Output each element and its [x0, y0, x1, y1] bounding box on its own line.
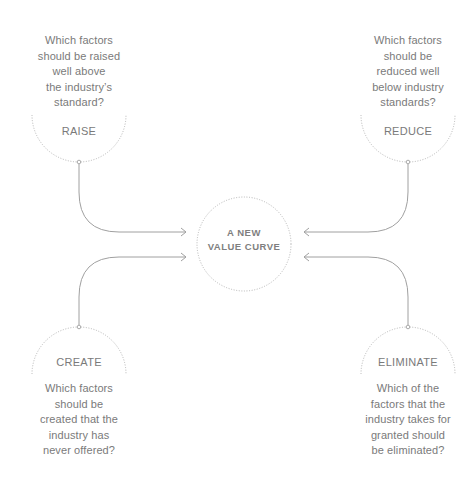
eliminate-question: Which of the factors that the industry t…	[343, 381, 470, 459]
reduce-question: Which factors should be reduced well bel…	[343, 33, 470, 111]
create-label: CREATE	[19, 355, 139, 369]
reduce-node-icon	[406, 160, 410, 164]
reduce-label: REDUCE	[348, 124, 468, 138]
eliminate-connector	[304, 257, 408, 325]
raise-connector	[79, 164, 186, 232]
eliminate-node-icon	[406, 325, 410, 329]
center-title: A NEW VALUE CURVE	[194, 226, 294, 254]
raise-question: Which factors should be raised well abov…	[14, 33, 144, 111]
create-question: Which factors should be created that the…	[14, 381, 144, 459]
create-node-icon	[77, 325, 81, 329]
reduce-connector	[304, 164, 408, 232]
raise-node-icon	[77, 160, 81, 164]
reduce-arc	[361, 115, 455, 162]
create-connector	[79, 257, 186, 325]
raise-label: RAISE	[19, 124, 139, 138]
eliminate-label: ELIMINATE	[348, 355, 468, 369]
raise-arc	[32, 115, 126, 162]
